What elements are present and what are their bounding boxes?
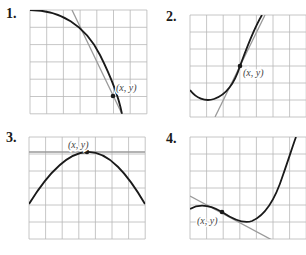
panel-1-graph: (x, y)	[30, 10, 147, 114]
point-label: (x, y)	[116, 82, 137, 94]
tangent-point	[85, 150, 90, 155]
point-label: (x, y)	[197, 215, 218, 227]
panel-3-graph: (x, y)	[29, 137, 145, 239]
grid	[30, 10, 147, 114]
function-curve	[190, 137, 296, 222]
tangent-point	[220, 210, 225, 215]
tangent-point	[111, 94, 116, 99]
function-curve	[29, 152, 145, 204]
grid	[190, 15, 306, 117]
tangent-point	[238, 64, 243, 69]
panel-2-graph: (x, y)	[190, 15, 306, 117]
point-label: (x, y)	[243, 67, 264, 79]
tangent-line-figure: (x, y) (x, y) (x, y) (x, y)	[0, 0, 306, 255]
point-label: (x, y)	[68, 139, 89, 151]
function-curve	[190, 15, 262, 100]
panel-4-graph: (x, y)	[190, 137, 306, 240]
